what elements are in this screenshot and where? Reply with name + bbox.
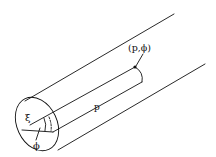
cylinder-bottom-edge <box>58 64 205 150</box>
phi-leader-line <box>36 128 40 140</box>
point-label: (p,ϕ) <box>128 42 151 53</box>
inner-cylinder-end-arc <box>135 67 142 82</box>
xi-label: ξ <box>25 112 31 123</box>
cylinder-top-edge <box>25 14 174 101</box>
point-leader-line <box>136 54 143 66</box>
radial-label: p <box>94 102 100 112</box>
radial-line <box>22 130 53 132</box>
angle-arc-outer <box>49 117 51 131</box>
phi-label: ϕ <box>33 140 40 151</box>
cylinder-diagram: (p,ϕ) p ξ ϕ <box>0 0 216 157</box>
inner-cylinder-top <box>30 67 135 125</box>
angle-arc-inner <box>44 118 46 131</box>
